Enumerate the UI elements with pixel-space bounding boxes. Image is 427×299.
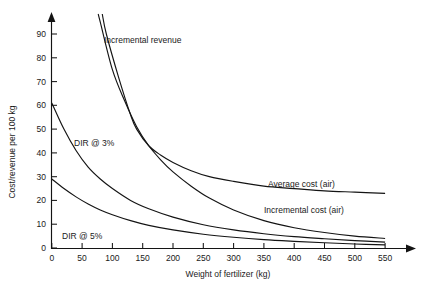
label-incremental-revenue: Incremental revenue: [104, 35, 182, 45]
x-tick-label: 500: [348, 253, 362, 263]
y-axis-label: Cost/revenue per 100 kg: [7, 105, 17, 198]
y-tick-label: 50: [37, 124, 47, 134]
label-incremental-cost-air: Incremental cost (air): [264, 205, 344, 215]
x-tick-labels: 0 50 100 150 200 250 300 350 400 450 500…: [49, 253, 392, 263]
x-tick-label: 300: [227, 253, 241, 263]
x-axis-arrowhead: [406, 245, 416, 253]
curve-dir-3: [52, 103, 385, 242]
y-tick-label: 20: [37, 195, 47, 205]
y-axis: [48, 12, 56, 249]
x-tick-label: 400: [287, 253, 301, 263]
label-average-cost-air: Average cost (air): [268, 179, 335, 189]
y-tick-label: 0: [41, 243, 46, 253]
y-tick-label: 90: [37, 29, 47, 39]
y-tick-label: 10: [37, 219, 47, 229]
x-tick-label: 0: [49, 253, 54, 263]
y-tick-label: 80: [37, 53, 47, 63]
label-dir-3: DIR @ 3%: [74, 138, 115, 148]
x-tick-label: 250: [196, 253, 210, 263]
x-tick-label: 100: [105, 253, 119, 263]
y-tick-label: 40: [37, 148, 47, 158]
chart-svg: Cost/revenue per 100 kg 0 10: [0, 0, 427, 299]
x-tick-label: 200: [166, 253, 180, 263]
series-annotations: Incremental revenue Average cost (air) I…: [62, 35, 344, 241]
x-tick-label: 350: [257, 253, 271, 263]
x-tick-marks: [52, 243, 385, 249]
x-tick-label: 450: [317, 253, 331, 263]
y-tick-label: 30: [37, 172, 47, 182]
x-axis-label: Weight of fertilizer (kg): [186, 269, 271, 279]
x-tick-label: 550: [378, 253, 392, 263]
y-tick-labels: 0 10 20 30 40 50 60 70 80 90: [37, 29, 47, 253]
y-tick-label: 70: [37, 77, 47, 87]
x-tick-label: 50: [77, 253, 87, 263]
y-tick-marks: [52, 34, 58, 248]
y-tick-label: 60: [37, 100, 47, 110]
x-tick-label: 150: [136, 253, 150, 263]
chart-figure: Cost/revenue per 100 kg 0 10: [0, 0, 427, 299]
y-axis-arrowhead: [48, 12, 56, 22]
label-dir-5: DIR @ 5%: [62, 231, 103, 241]
